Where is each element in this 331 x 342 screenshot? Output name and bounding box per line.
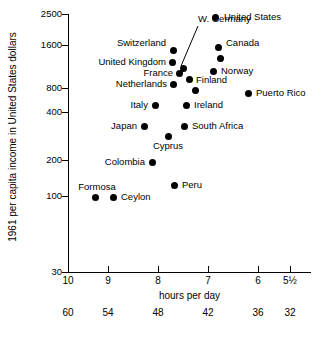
data-point-label: Colombia <box>105 157 145 167</box>
x-tick-mark <box>158 266 159 272</box>
data-point-label: Ceylon <box>121 192 151 202</box>
data-point <box>245 90 252 97</box>
y-tick-mark <box>62 272 68 273</box>
data-point-label: Japan <box>111 121 137 131</box>
data-point-label: Finland <box>196 75 227 85</box>
x-axis-title: hours per day <box>68 291 311 301</box>
data-point-label: Puerto Rico <box>256 88 306 98</box>
data-point-label: Ireland <box>194 100 223 110</box>
data-point <box>170 47 177 54</box>
x-tick-label: 8 <box>138 276 178 286</box>
data-point-label: Canada <box>226 38 259 48</box>
x-tick-mark <box>290 266 291 272</box>
x-axis-line <box>68 272 311 273</box>
y-tick-label: 1600 <box>28 40 62 50</box>
data-point <box>169 59 176 66</box>
x-tick-mark <box>108 266 109 272</box>
data-point <box>92 194 99 201</box>
x-tick-mark <box>258 266 259 272</box>
y-tick-label: 2500 <box>28 9 62 19</box>
y-axis-line <box>68 14 69 272</box>
x-tick-label-secondary: 32 <box>270 308 310 318</box>
data-point <box>176 70 183 77</box>
data-point <box>149 159 156 166</box>
data-point <box>165 133 172 140</box>
data-point-label: Formosa <box>78 182 115 192</box>
x-tick-label-secondary: 60 <box>48 308 88 318</box>
y-tick-mark <box>62 14 68 15</box>
data-point-label: Netherlands <box>116 79 167 89</box>
y-tick-label: 400 <box>28 107 62 117</box>
x-tick-label: 9 <box>88 276 128 286</box>
data-point <box>141 123 148 130</box>
data-point-label: W. Germany <box>198 14 251 24</box>
y-tick-mark <box>62 112 68 113</box>
data-point-label: Italy <box>131 100 148 110</box>
x-tick-label: 5½ <box>270 276 310 286</box>
x-tick-label: 10 <box>48 276 88 286</box>
data-point <box>110 194 117 201</box>
x-tick-mark <box>208 266 209 272</box>
data-point <box>186 76 193 83</box>
data-point-label: Peru <box>182 180 202 190</box>
data-point <box>215 44 222 51</box>
x-tick-label-secondary: 54 <box>88 308 128 318</box>
data-point <box>181 123 188 130</box>
y-tick-mark <box>62 160 68 161</box>
data-point <box>192 87 199 94</box>
x-tick-label: 7 <box>188 276 228 286</box>
data-point-label: Cyprus <box>153 141 183 151</box>
data-point <box>170 81 177 88</box>
data-point <box>152 102 159 109</box>
data-point-label: Switzerland <box>117 38 166 48</box>
y-tick-mark <box>62 196 68 197</box>
y-tick-mark <box>62 88 68 89</box>
x-tick-label-secondary: 42 <box>188 308 228 318</box>
scatter-chart: 1961 per capita income in United States … <box>0 0 331 342</box>
y-tick-label: 200 <box>28 155 62 165</box>
data-point <box>171 182 178 189</box>
data-point <box>183 102 190 109</box>
y-tick-label: 100 <box>28 191 62 201</box>
y-axis-title: 1961 per capita income in United States … <box>8 12 18 262</box>
data-point-label: France <box>143 68 173 78</box>
y-tick-label: 800 <box>28 83 62 93</box>
data-point <box>217 55 224 62</box>
y-tick-mark <box>62 45 68 46</box>
data-point-label: United Kingdom <box>98 57 166 67</box>
x-tick-label-secondary: 48 <box>138 308 178 318</box>
data-point-label: South Africa <box>192 121 243 131</box>
